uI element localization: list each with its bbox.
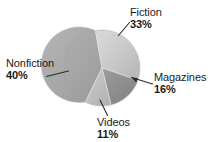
- pie-label-magazines: Magazines 16%: [154, 72, 206, 96]
- pie-label-fiction: Fiction 33%: [130, 7, 162, 31]
- pie-label-videos-value: 11%: [97, 129, 130, 141]
- pie-label-nonfiction: Nonfiction 40%: [6, 58, 54, 82]
- pie-label-videos: Videos 11%: [97, 117, 130, 141]
- leader-line-fiction: [119, 23, 130, 36]
- pie-label-fiction-value: 33%: [130, 19, 162, 31]
- pie-label-nonfiction-value: 40%: [6, 70, 54, 82]
- pie-chart-screenshot: Fiction 33% Magazines 16% Videos 11% Non…: [0, 0, 215, 142]
- pie-label-magazines-value: 16%: [154, 84, 206, 96]
